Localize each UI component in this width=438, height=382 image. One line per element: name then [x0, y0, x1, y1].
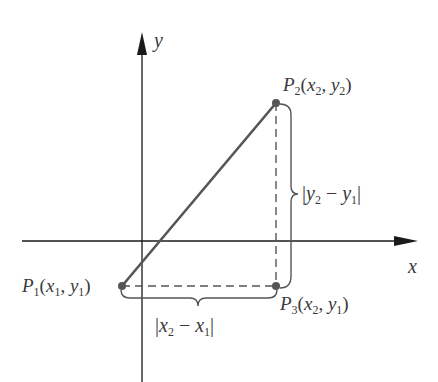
- hdist-a: x: [159, 314, 168, 336]
- p2-sub: 2: [295, 84, 301, 98]
- x-axis-arrow-icon: [394, 236, 418, 246]
- p1-name: P: [22, 275, 34, 296]
- p1-x-sub: 1: [54, 285, 60, 299]
- p1-y-sub: 1: [78, 285, 84, 299]
- hdist-op: −: [179, 314, 190, 336]
- label-p3: P3(x2, y1): [280, 294, 349, 316]
- x-axis-label: x: [408, 256, 417, 276]
- p2-x-sub: 2: [315, 84, 321, 98]
- label-p2: P2(x2, y2): [283, 75, 352, 97]
- hdist-b-sub: 1: [204, 325, 210, 339]
- label-vertical-distance: |y2 − y1|: [302, 183, 361, 206]
- vertical-brace: [280, 104, 298, 288]
- point-p2: [272, 99, 280, 107]
- vdist-a-sub: 2: [315, 193, 321, 207]
- label-horizontal-distance: |x2 − x1|: [155, 315, 214, 338]
- y-axis-label: y: [154, 30, 163, 50]
- segment-p1-p2: [122, 103, 276, 286]
- point-p1: [118, 282, 126, 290]
- p3-x-sub: 2: [312, 303, 318, 317]
- hdist-a-sub: 2: [168, 325, 174, 339]
- p3-name: P: [280, 293, 292, 314]
- horizontal-brace: [121, 290, 277, 306]
- vdist-b: y: [342, 182, 351, 204]
- point-p3: [272, 282, 280, 290]
- vdist-a: y: [306, 182, 315, 204]
- hdist-b: x: [195, 314, 204, 336]
- y-axis-arrow-icon: [137, 32, 147, 55]
- p3-y-sub: 1: [336, 303, 342, 317]
- p1-sub: 1: [34, 285, 40, 299]
- diagram-canvas: [0, 0, 438, 382]
- p3-sub: 3: [292, 303, 298, 317]
- label-p1: P1(x1, y1): [22, 276, 91, 298]
- p2-y-sub: 2: [339, 84, 345, 98]
- vdist-b-sub: 1: [351, 193, 357, 207]
- distance-formula-diagram: y x P2(x2, y2) P1(x1, y1) P3(x2, y1) |y2…: [0, 0, 438, 382]
- p2-name: P: [283, 74, 295, 95]
- vdist-op: −: [326, 182, 337, 204]
